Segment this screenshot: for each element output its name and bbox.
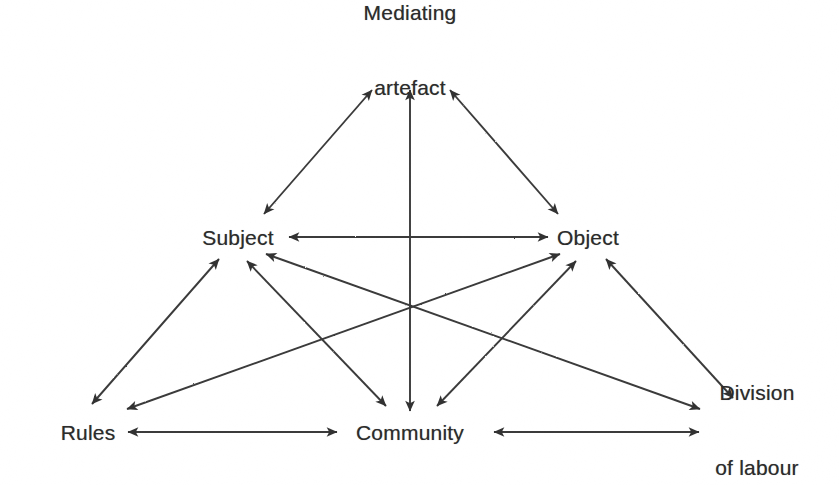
edge-subject-mediating-artefact <box>264 90 372 214</box>
edge-object-division-of-labour <box>606 259 733 398</box>
node-label-line: Community <box>356 420 464 445</box>
activity-system-diagram: Mediating artefact Subject Object Rules … <box>0 0 839 485</box>
node-label-line: Division <box>715 380 799 405</box>
node-division-of-labour: Division of labour <box>715 330 799 485</box>
edge-subject-division-of-labour <box>266 254 700 409</box>
edge-object-mediating-artefact <box>450 90 558 214</box>
node-subject: Subject <box>202 175 273 300</box>
node-label-line: Object <box>557 225 619 250</box>
node-community: Community <box>356 370 464 485</box>
edge-object-rules <box>127 254 560 409</box>
node-label-line: Subject <box>202 225 273 250</box>
node-mediating-artefact: Mediating artefact <box>364 0 457 150</box>
node-object: Object <box>557 175 619 300</box>
node-label-line: Mediating <box>364 0 457 25</box>
node-label-line: artefact <box>364 75 457 100</box>
node-rules: Rules <box>61 370 116 485</box>
node-label-line: of labour <box>715 455 799 480</box>
node-label-line: Rules <box>61 420 116 445</box>
